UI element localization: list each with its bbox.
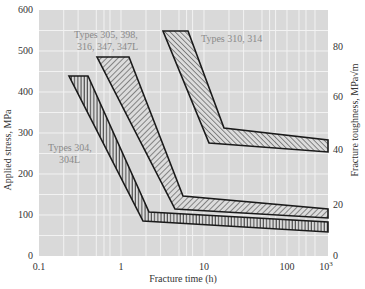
y2-tick-40: 40 [333, 144, 343, 155]
y-tick-400: 400 [18, 86, 33, 97]
label-types-304-line2: 304L [59, 154, 80, 165]
y2-tick-20: 20 [333, 199, 343, 210]
label-types-310: Types 310, 314 [201, 33, 262, 44]
x-tick-1: 1 [119, 261, 124, 272]
y2-tick-0: 0 [333, 250, 338, 261]
y2-axis-title: Fracture toughness, MPa√m [349, 63, 360, 176]
y-tick-300: 300 [18, 127, 33, 138]
y-axis-ticks: 0 100 200 300 400 500 600 [18, 4, 33, 261]
y-tick-100: 100 [18, 209, 33, 220]
y2-tick-80: 80 [333, 41, 343, 52]
label-types-305-line2: 316, 347, 347L [77, 41, 138, 52]
y-tick-200: 200 [18, 168, 33, 179]
x-tick-100: 100 [280, 261, 295, 272]
y2-axis-ticks: 0 20 40 60 80 [333, 41, 343, 261]
stress-vs-fracture-time-chart: Types 305, 398, 316, 347, 347L Types 310… [0, 0, 365, 289]
x-tick-1000: 103 [319, 260, 333, 272]
y2-tick-60: 60 [333, 91, 343, 102]
x-tick-0.1: 0.1 [33, 261, 46, 272]
x-axis-title: Fracture time (h) [149, 273, 217, 285]
y-tick-500: 500 [18, 45, 33, 56]
x-tick-10: 10 [199, 261, 209, 272]
label-types-304-line1: Types 304, [48, 142, 92, 153]
x-axis-ticks: 0.1 1 10 100 103 [33, 260, 334, 272]
label-types-305-line1: Types 305, 398, [74, 29, 138, 40]
y-axis-title: Applied stress, MPa [2, 109, 13, 190]
y-tick-600: 600 [18, 4, 33, 15]
y-tick-0: 0 [28, 250, 33, 261]
